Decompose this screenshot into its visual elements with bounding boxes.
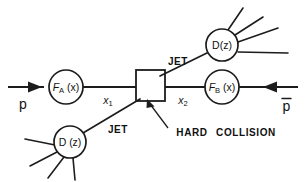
left-beam-arrowhead [28,82,42,93]
hard-pointer-line [150,104,168,128]
diagram-canvas: FA (x) FB (x) D(z) D (z) p p x1 x2 JET J… [0,0,306,182]
lower-fragment-line-1 [25,139,55,145]
right-beam-arrowhead [263,82,277,93]
upper-fragment-line-1 [228,8,243,30]
hard-annotation-label: HARD [176,127,207,138]
momentum-fraction-x1-label: x1 [102,94,112,108]
antiproton-beam-label: p [283,98,291,114]
left-beam-group [8,82,44,93]
hard-collision-box [136,70,165,101]
lower-jet-label: JET [108,124,128,135]
lower-fragment-line-4 [73,158,75,180]
antiproton-beam-label-group: p [282,98,291,114]
lower-fragment-line-3 [48,157,64,178]
upper-fragment-line-2 [235,17,263,35]
structure-function-a-label: FA (x) [53,81,80,95]
hard-box-outline [136,70,165,101]
right-beam-group [239,82,298,93]
upper-fragment-line-4 [238,52,288,53]
fragmentation-upper-node [206,8,288,61]
fragmentation-lower-label: D (z) [59,136,82,148]
fragmentation-lower-node [25,126,86,180]
lower-fragment-line-2 [30,152,57,166]
momentum-fraction-x2-label: x2 [177,94,187,108]
proton-beam-label: p [19,96,27,112]
collision-annotation-label: COLLISION [216,127,276,138]
hard-collision-pointer [147,99,169,128]
fragmentation-upper-label: D(z) [212,39,232,51]
hard-collision-diagram: FA (x) FB (x) D(z) D (z) p p x1 x2 JET J… [0,0,306,182]
structure-function-b-label: FB (x) [209,81,236,95]
upper-jet-label: JET [168,56,188,67]
